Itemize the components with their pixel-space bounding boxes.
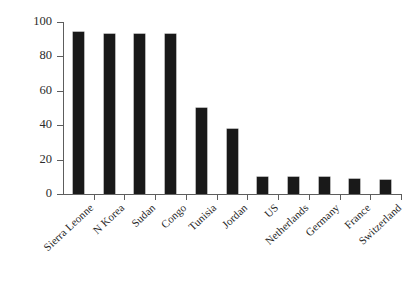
y-axis-tick-label: 100	[18, 15, 52, 28]
x-axis-tick	[124, 194, 125, 200]
x-axis-tick	[278, 194, 279, 200]
bar	[380, 180, 391, 194]
y-axis-tick	[57, 194, 63, 195]
x-axis-tick	[309, 194, 310, 200]
bar	[349, 179, 360, 194]
y-axis-tick	[57, 91, 63, 92]
x-axis-tick	[340, 194, 341, 200]
bar	[227, 129, 238, 194]
bar	[165, 34, 176, 194]
bar	[73, 32, 84, 194]
x-axis-tick	[370, 194, 371, 200]
bar	[134, 34, 145, 194]
x-axis-line	[63, 194, 401, 195]
y-axis-tick-label: 60	[18, 84, 52, 97]
y-axis-tick-label: 20	[18, 153, 52, 166]
bar	[257, 177, 268, 194]
y-axis-tick	[57, 22, 63, 23]
bar	[196, 108, 207, 194]
x-axis-tick	[186, 194, 187, 200]
bar	[288, 177, 299, 194]
y-axis-tick-label: 40	[18, 118, 52, 131]
x-axis-tick	[247, 194, 248, 200]
y-axis-line	[63, 22, 64, 195]
x-axis-tick	[155, 194, 156, 200]
y-axis-tick	[57, 125, 63, 126]
y-axis-tick-label: 80	[18, 49, 52, 62]
bar	[104, 34, 115, 194]
bar-chart: 020406080100 Sierra LeonneN KoreaSudanCo…	[0, 0, 420, 289]
x-axis-tick	[401, 194, 402, 200]
x-axis-tick	[217, 194, 218, 200]
y-axis-tick-label: 0	[18, 187, 52, 200]
y-axis-tick	[57, 160, 63, 161]
y-axis-tick	[57, 56, 63, 57]
bar	[319, 177, 330, 194]
x-axis-tick	[94, 194, 95, 200]
